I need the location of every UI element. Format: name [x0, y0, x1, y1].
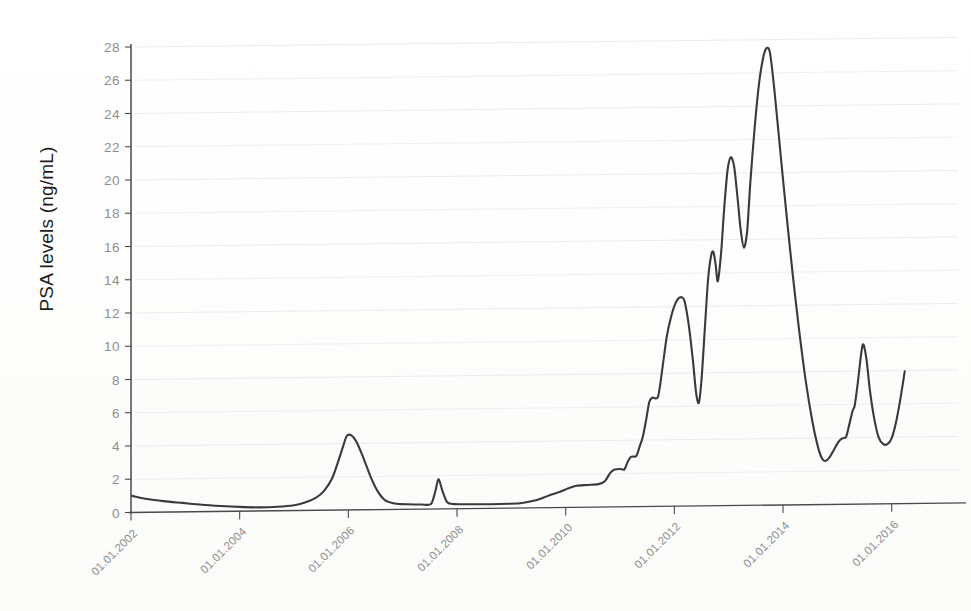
axis-lines [129, 44, 966, 514]
y-axis-tick-marks [125, 47, 131, 513]
plot-area [0, 0, 971, 611]
gridlines [135, 37, 958, 479]
psa-chart: PSA levels (ng/mL) 024681012141618202224… [0, 0, 971, 611]
